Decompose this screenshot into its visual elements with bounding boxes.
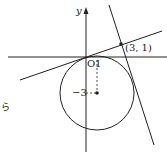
- tick-x-label: 1: [95, 59, 101, 69]
- y-axis-label: y: [76, 6, 82, 16]
- tick-y-label: −3: [72, 88, 87, 98]
- y-axis-arrow-icon: [84, 7, 89, 14]
- center-point: [95, 91, 99, 95]
- point-label: (3, 1): [125, 43, 152, 53]
- side-text: ら: [1, 103, 10, 112]
- point-3-1: [119, 42, 123, 46]
- tangent-line-1: [20, 31, 162, 80]
- diagram-canvas: [0, 0, 167, 163]
- origin-label: O: [87, 59, 95, 69]
- tangent-line-2: [109, 5, 154, 145]
- diagram-figure: y O 1 −3 (3, 1) ら: [0, 0, 167, 163]
